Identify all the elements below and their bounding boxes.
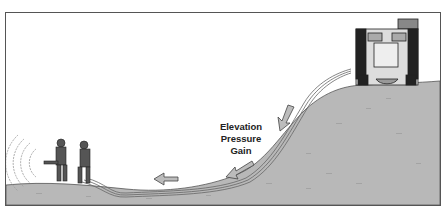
elevation-pressure-gain-label: Elevation Pressure Gain: [211, 121, 271, 157]
label-line: Gain: [211, 145, 271, 157]
label-line: Elevation: [211, 121, 271, 133]
water-spray: [6, 135, 36, 191]
arrow-left: [154, 173, 178, 185]
fire-engine: [356, 19, 418, 85]
scene: [6, 13, 440, 205]
firefighter-backup: [78, 141, 90, 183]
diagram-frame: Elevation Pressure Gain: [5, 12, 441, 206]
label-line: Pressure: [211, 133, 271, 145]
firefighter-nozzle: [44, 139, 67, 181]
